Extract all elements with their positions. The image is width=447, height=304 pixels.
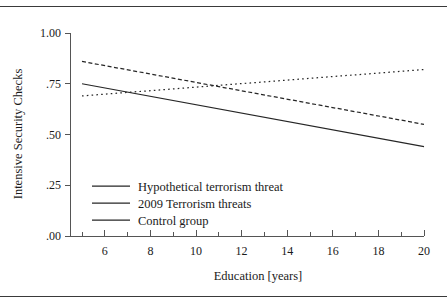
figure-rule-bottom — [0, 296, 447, 297]
legend-label: Control group — [138, 214, 208, 228]
y-tick-label: 1.00 — [40, 26, 61, 40]
series-line — [82, 70, 424, 96]
figure-caption-clipped — [0, 0, 447, 5]
x-axis-ticks: 68101214161820 — [82, 230, 430, 258]
legend-label: Hypothetical terrorism threat — [138, 180, 284, 194]
figure-container: .00.25.50.751.00 68101214161820 Hypothet… — [0, 0, 447, 304]
x-tick-label: 12 — [236, 244, 248, 258]
line-chart: .00.25.50.751.00 68101214161820 Hypothet… — [0, 8, 447, 294]
x-tick-label: 14 — [281, 244, 293, 258]
x-tick-label: 18 — [372, 244, 384, 258]
y-tick-label: .75 — [46, 77, 61, 91]
y-axis-ticks: .00.25.50.751.00 — [40, 26, 70, 243]
x-tick-label: 6 — [102, 244, 108, 258]
x-axis-title: Education [years] — [214, 269, 303, 283]
chart-series-group — [82, 61, 424, 146]
y-tick-label: .50 — [46, 128, 61, 142]
legend-label: 2009 Terrorism threats — [138, 197, 252, 211]
chart-legend: Hypothetical terrorism threat2009 Terror… — [92, 180, 284, 228]
x-tick-label: 16 — [327, 244, 339, 258]
figure-rule-top — [0, 6, 447, 7]
y-tick-label: .25 — [46, 178, 61, 192]
y-axis-title: Intensive Security Checks — [11, 69, 25, 200]
y-tick-label: .00 — [46, 229, 61, 243]
x-tick-label: 8 — [147, 244, 153, 258]
x-tick-label: 20 — [418, 244, 430, 258]
x-tick-label: 10 — [190, 244, 202, 258]
